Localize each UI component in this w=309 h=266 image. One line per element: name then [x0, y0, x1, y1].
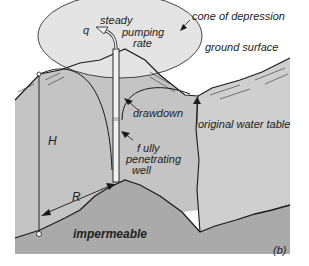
label-height-H: H	[48, 136, 57, 147]
panel-label: (b)	[273, 245, 286, 256]
label-steady: steady	[100, 15, 132, 26]
label-original-water-table: original water table	[198, 119, 290, 130]
label-rate: rate	[133, 38, 152, 49]
unconfined-aquifer-well-diagram	[0, 0, 309, 266]
top-point-marker	[37, 72, 41, 76]
label-ground-surface: ground surface	[205, 42, 278, 53]
label-cone-of-depression: cone of depression	[192, 11, 285, 22]
well-casing[interactable]	[113, 49, 119, 182]
label-radius-R: R	[72, 192, 81, 203]
label-drawdown: drawdown	[133, 108, 183, 119]
label-well: well	[132, 165, 151, 176]
label-impermeable: impermeable	[73, 229, 147, 240]
label-q: q	[83, 25, 89, 36]
aquifer-right-block	[198, 58, 290, 232]
base-point-marker	[37, 232, 42, 237]
cone-of-depression-ellipse	[38, 0, 202, 78]
